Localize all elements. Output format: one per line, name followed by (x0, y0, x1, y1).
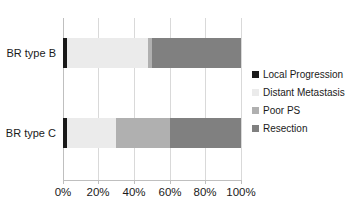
legend-item-local-progression: Local Progression (252, 66, 354, 83)
bar-segment-distant-metastasis (67, 38, 149, 68)
tick-mark-80 (205, 180, 206, 184)
square-swatch-icon (252, 89, 259, 96)
gridline-100 (241, 18, 242, 180)
x-tick-label-100: 100% (218, 185, 264, 199)
x-axis-line (63, 180, 242, 181)
tick-mark-40 (134, 180, 135, 184)
category-label-br-type-c: BR type C (0, 127, 56, 139)
legend-item-label: Distant Metastasis (263, 87, 345, 98)
square-swatch-icon (252, 71, 259, 78)
plot-area (63, 18, 241, 180)
legend-item-label: Resection (263, 123, 307, 134)
tick-mark-60 (170, 180, 171, 184)
tick-mark-0 (63, 180, 64, 184)
legend-item-resection: Resection (252, 120, 354, 137)
square-swatch-icon (252, 107, 259, 114)
tick-mark-20 (98, 180, 99, 184)
legend-item-label: Poor PS (263, 105, 300, 116)
stacked-bar-chart: BR type B BR type C 0% 20% 40% 60% 80% 1… (0, 0, 354, 210)
bar-segment-distant-metastasis (67, 118, 117, 148)
legend-item-poor-ps: Poor PS (252, 102, 354, 119)
bar-segment-poor-ps (116, 118, 169, 148)
bar-segment-resection (152, 38, 241, 68)
square-swatch-icon (252, 125, 259, 132)
tick-mark-100 (241, 180, 242, 184)
legend-item-label: Local Progression (263, 69, 343, 80)
bar-segment-resection (170, 118, 241, 148)
legend-item-distant-metastasis: Distant Metastasis (252, 84, 354, 101)
bar-row-br-type-c (63, 118, 241, 148)
bar-row-br-type-b (63, 38, 241, 68)
category-label-br-type-b: BR type B (0, 47, 56, 59)
chart-legend: Local Progression Distant Metastasis Poo… (252, 66, 354, 138)
